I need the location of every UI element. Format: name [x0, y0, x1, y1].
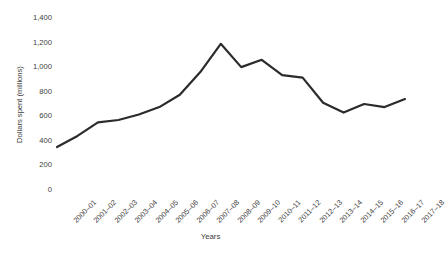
x-tick-label: 2017–18 — [419, 198, 446, 225]
x-axis-title: Years — [0, 232, 421, 241]
data-series-line — [57, 44, 405, 147]
